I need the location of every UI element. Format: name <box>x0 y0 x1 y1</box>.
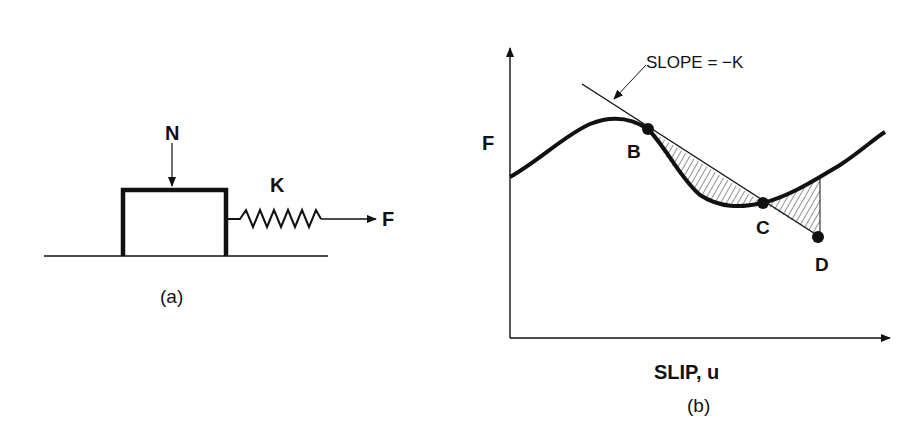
sliding-block <box>123 190 226 256</box>
figure-a-caption: (a) <box>160 286 183 307</box>
point-d-label: D <box>815 254 829 275</box>
point-c-marker <box>757 197 769 209</box>
tangent-line-slope-minus-k <box>582 84 820 237</box>
y-axis-label: F <box>482 132 494 154</box>
x-axis-label: SLIP, u <box>654 361 719 383</box>
slope-annotation-label: SLOPE = −K <box>646 53 744 72</box>
point-b-label: B <box>627 141 641 162</box>
point-c-label: C <box>756 217 770 238</box>
point-b-marker <box>642 123 654 135</box>
figure-b-caption: (b) <box>687 395 710 416</box>
spring <box>228 210 321 227</box>
spring-constant-label: K <box>270 174 285 196</box>
point-d-marker <box>812 231 824 243</box>
normal-force-label: N <box>165 122 179 144</box>
slope-annotation-arrow <box>614 65 646 99</box>
hatched-area-b-c <box>648 129 763 206</box>
figure-canvas: N K F (a) F SLIP, u (b) SLOPE = −K B C <box>0 0 918 447</box>
figure-a-block-spring: N K F (a) <box>44 122 394 307</box>
figure-b-force-slip-plot: F SLIP, u (b) SLOPE = −K B C D <box>482 48 890 416</box>
applied-force-label: F <box>382 208 394 230</box>
